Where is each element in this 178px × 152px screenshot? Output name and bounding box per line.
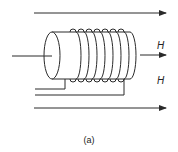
field-label-bottom: H (157, 75, 165, 86)
cylinder-core (44, 32, 136, 79)
coil-turns (70, 29, 129, 82)
figure-caption: (a) (84, 135, 95, 145)
field-label-top: H (157, 40, 165, 51)
lead-wire-1 (35, 79, 65, 89)
solenoid-diagram: H H (a) (0, 0, 178, 152)
